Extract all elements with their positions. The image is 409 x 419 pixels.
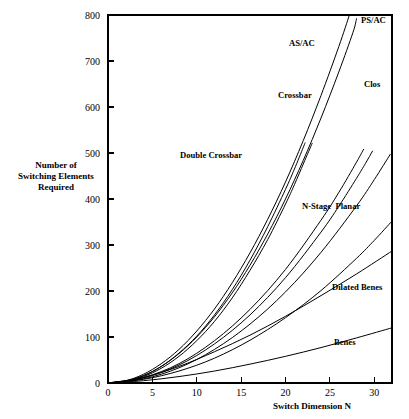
x-tick-label: 30 <box>369 387 379 398</box>
x-tick-label: 20 <box>281 387 291 398</box>
y-tick-label: 600 <box>85 102 100 113</box>
curve-label-as-ac: AS/AC <box>289 38 315 48</box>
curve-label-n-stage-planar: N-Stage Planar <box>302 201 360 211</box>
x-tick-label: 15 <box>236 387 246 398</box>
y-tick-label: 200 <box>85 286 100 297</box>
y-tick-label: 100 <box>85 332 100 343</box>
y-tick-label: 0 <box>95 378 100 389</box>
x-tick-label: 10 <box>192 387 202 398</box>
y-tick-label: 300 <box>85 240 100 251</box>
chart-container: 0100200300400500600700800 051015202530 A… <box>0 0 409 419</box>
y-tick-labels: 0100200300400500600700800 <box>85 10 100 389</box>
y-axis-title-line1: Number of <box>35 160 78 170</box>
curve-label-benes: Benes <box>334 337 356 347</box>
y-tick-label: 700 <box>85 56 100 67</box>
y-axis-title-line2: Switching Elements <box>18 171 94 181</box>
y-tick-label: 400 <box>85 194 100 205</box>
y-tick-label: 500 <box>85 148 100 159</box>
x-axis-title: Switch Dimension N <box>273 401 352 411</box>
y-axis-title-line3: Required <box>38 182 74 192</box>
curve-label-ps-ac: PS/AC <box>361 15 386 25</box>
y-tick-label: 800 <box>85 10 100 21</box>
x-tick-label: 0 <box>106 387 111 398</box>
curve-label-double-crossbar: Double Crossbar <box>180 150 242 160</box>
curve-label-dilated-benes: Dilated Benes <box>332 282 383 292</box>
curve-label-crossbar: Crossbar <box>278 90 312 100</box>
switching-elements-chart: 0100200300400500600700800 051015202530 A… <box>0 0 409 419</box>
x-tick-label: 5 <box>150 387 155 398</box>
curve-label-clos: Clos <box>364 79 381 89</box>
x-tick-label: 25 <box>325 387 335 398</box>
